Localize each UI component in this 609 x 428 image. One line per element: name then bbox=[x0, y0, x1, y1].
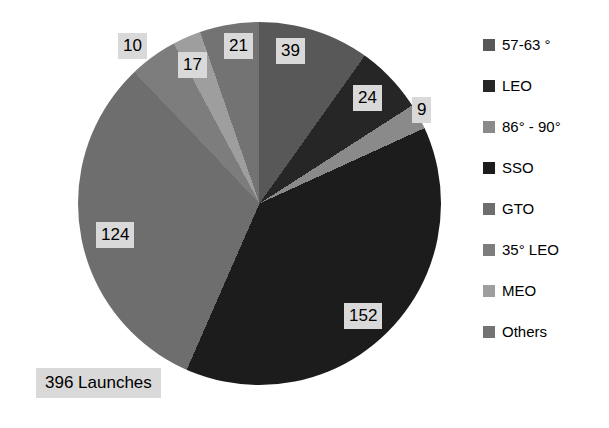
total-launches-label: 396 Launches bbox=[36, 368, 161, 398]
legend-swatch-icon bbox=[483, 203, 495, 215]
legend-item-label: 57-63 ° bbox=[502, 37, 551, 52]
legend-item-label: SSO bbox=[502, 160, 534, 175]
legend-item[interactable]: 35° LEO bbox=[483, 229, 609, 270]
legend-swatch-icon bbox=[483, 39, 495, 51]
pie-value-label: 39 bbox=[276, 38, 305, 64]
pie-value-label: 17 bbox=[178, 52, 207, 78]
pie-value-label: 124 bbox=[96, 222, 134, 248]
legend-item[interactable]: SSO bbox=[483, 147, 609, 188]
pie-value-label: 10 bbox=[118, 33, 147, 59]
pie-value-label: 152 bbox=[344, 303, 382, 329]
legend-item-label: LEO bbox=[502, 78, 532, 93]
legend-item-label: 86° - 90° bbox=[502, 119, 561, 134]
legend-item-label: 35° LEO bbox=[502, 242, 559, 257]
legend-item[interactable]: GTO bbox=[483, 188, 609, 229]
legend-swatch-icon bbox=[483, 121, 495, 133]
pie-value-label: 9 bbox=[412, 97, 431, 123]
pie-disc bbox=[78, 22, 441, 385]
pie-value-label: 24 bbox=[353, 85, 382, 111]
legend-swatch-icon bbox=[483, 244, 495, 256]
legend-item[interactable]: Others bbox=[483, 311, 609, 352]
legend-item-label: GTO bbox=[502, 201, 534, 216]
legend-item[interactable]: LEO bbox=[483, 65, 609, 106]
legend-item-label: Others bbox=[502, 324, 547, 339]
legend-item[interactable]: MEO bbox=[483, 270, 609, 311]
legend-item[interactable]: 57-63 ° bbox=[483, 24, 609, 65]
chart-legend: 57-63 °LEO86° - 90°SSOGTO35° LEOMEOOther… bbox=[483, 24, 609, 352]
legend-swatch-icon bbox=[483, 162, 495, 174]
pie-chart-area bbox=[78, 22, 441, 385]
legend-item[interactable]: 86° - 90° bbox=[483, 106, 609, 147]
pie-chart: 39249152124171021 396 Launches 57-63 °LE… bbox=[0, 0, 609, 428]
legend-item-label: MEO bbox=[502, 283, 536, 298]
pie-value-label: 21 bbox=[224, 33, 253, 59]
legend-swatch-icon bbox=[483, 80, 495, 92]
legend-swatch-icon bbox=[483, 326, 495, 338]
legend-swatch-icon bbox=[483, 285, 495, 297]
